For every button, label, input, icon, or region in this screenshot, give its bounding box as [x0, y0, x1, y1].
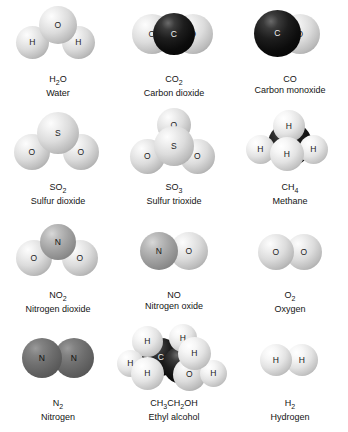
atom-label: O — [77, 254, 84, 263]
atom-n: N — [22, 338, 62, 378]
molecule-caption: COCarbon monoxide — [232, 74, 348, 96]
atom-o: O — [258, 234, 294, 270]
atom-h: H — [260, 344, 292, 376]
molecule-cell-methane: CHHHHCH4Methane — [232, 108, 348, 216]
atom-n: N — [140, 232, 178, 270]
molecule-model-oxygen: OO — [232, 216, 348, 288]
molecule-model-nitrogen-dioxide: NOO — [0, 216, 116, 288]
molecule-name: Water — [0, 88, 116, 99]
molecule-caption: CH3CH2OHEthyl alcohol — [116, 398, 232, 423]
atom-n: N — [40, 224, 76, 260]
atom-c: C — [254, 10, 301, 57]
molecule-model-carbon-monoxide: OC — [232, 0, 348, 72]
molecule-formula: H2 — [232, 398, 348, 412]
molecule-formula: CH4 — [232, 182, 348, 196]
molecule-cell-sulfur-trioxide: OSOOSO3Sulfur trioxide — [116, 108, 232, 216]
atom-label: H — [273, 356, 279, 365]
molecule-caption: SO2Sulfur dioxide — [0, 182, 116, 207]
atom-label: H — [310, 145, 316, 154]
molecule-name: Carbon monoxide — [232, 85, 348, 96]
molecule-formula: SO2 — [0, 182, 116, 196]
molecule-formula: CH3CH2OH — [116, 398, 232, 412]
molecule-model-sulfur-trioxide: OSOO — [116, 108, 232, 180]
molecule-cell-water: OHHH2OWater — [0, 0, 116, 108]
molecule-caption: SO3Sulfur trioxide — [116, 182, 232, 207]
atom-h: H — [270, 137, 304, 171]
atom-label: O — [194, 152, 201, 161]
molecule-model-hydrogen: HH — [232, 324, 348, 396]
molecule-cell-nitrogen-oxide: NONONitrogen oxide — [116, 216, 232, 324]
atom-label: O — [29, 148, 36, 157]
atom-label: S — [171, 142, 177, 151]
atom-label: O — [55, 21, 62, 30]
atom-s: S — [154, 126, 194, 166]
atom-label: O — [301, 248, 308, 257]
molecule-name: Nitrogen dioxide — [0, 304, 116, 315]
atom-label: C — [274, 29, 280, 38]
molecule-formula: NO2 — [0, 290, 116, 304]
molecule-caption: CO2Carbon dioxide — [116, 74, 232, 99]
molecule-cell-nitrogen-dioxide: NOONO2Nitrogen dioxide — [0, 216, 116, 324]
atom-label: O — [144, 152, 151, 161]
atom-label: H — [299, 356, 305, 365]
molecule-caption: H2Hydrogen — [232, 398, 348, 423]
atom-label: H — [191, 349, 197, 358]
atom-label: O — [78, 148, 85, 157]
molecule-cell-hydrogen: HHH2Hydrogen — [232, 324, 348, 432]
atom-label: H — [284, 150, 290, 159]
atom-label: N — [71, 354, 77, 363]
atom-label: N — [156, 247, 162, 256]
molecule-name: Methane — [232, 196, 348, 207]
atom-h: H — [178, 337, 211, 370]
molecule-cell-carbon-monoxide: OCCOCarbon monoxide — [232, 0, 348, 108]
atom-h: H — [131, 357, 164, 390]
atom-label: O — [186, 370, 193, 379]
molecule-formula: H2O — [0, 74, 116, 88]
molecule-model-sulfur-dioxide: SOO — [0, 108, 116, 180]
molecule-caption: N2Nitrogen — [0, 398, 116, 423]
molecule-cell-ethyl-alcohol: CCHHHHHOHCH3CH2OHEthyl alcohol — [116, 324, 232, 432]
molecule-model-ethyl-alcohol: CCHHHHHOH — [116, 324, 232, 396]
molecule-cell-sulfur-dioxide: SOOSO2Sulfur dioxide — [0, 108, 116, 216]
molecule-formula: N2 — [0, 398, 116, 412]
atom-label: O — [186, 247, 193, 256]
molecule-formula: O2 — [232, 290, 348, 304]
molecule-caption: CH4Methane — [232, 182, 348, 207]
molecule-formula: NO — [116, 290, 232, 301]
molecule-model-water: OHH — [0, 0, 116, 72]
molecule-caption: NO2Nitrogen dioxide — [0, 290, 116, 315]
molecule-caption: O2Oxygen — [232, 290, 348, 315]
atom-label: H — [29, 38, 35, 47]
molecule-model-nitrogen: NN — [0, 324, 116, 396]
atom-s: S — [37, 112, 79, 154]
atom-label: H — [210, 369, 216, 378]
molecule-model-carbon-dioxide: OOC — [116, 0, 232, 72]
atom-label: N — [39, 354, 45, 363]
atom-label: O — [273, 248, 280, 257]
atom-c: C — [153, 13, 195, 55]
molecule-cell-oxygen: OOO2Oxygen — [232, 216, 348, 324]
molecule-formula: CO — [232, 74, 348, 85]
molecule-formula: SO3 — [116, 182, 232, 196]
molecule-name: Nitrogen oxide — [116, 301, 232, 312]
molecule-caption: H2OWater — [0, 74, 116, 99]
atom-label: O — [31, 254, 38, 263]
molecule-caption: NONitrogen oxide — [116, 290, 232, 312]
molecule-model-methane: CHHHH — [232, 108, 348, 180]
molecule-model-nitrogen-oxide: NO — [116, 216, 232, 288]
molecule-name: Sulfur dioxide — [0, 196, 116, 207]
molecule-name: Hydrogen — [232, 412, 348, 423]
molecule-name: Ethyl alcohol — [116, 412, 232, 423]
molecule-grid: OHHH2OWaterOOCCO2Carbon dioxideOCCOCarbo… — [0, 0, 348, 432]
atom-label: H — [257, 145, 263, 154]
atom-label: H — [286, 122, 292, 131]
atom-label: C — [171, 30, 177, 39]
atom-label: H — [75, 38, 81, 47]
molecule-name: Nitrogen — [0, 412, 116, 423]
atom-label: H — [144, 369, 150, 378]
molecule-name: Carbon dioxide — [116, 88, 232, 99]
molecule-formula: CO2 — [116, 74, 232, 88]
atom-label: H — [144, 337, 150, 346]
atom-label: N — [55, 238, 61, 247]
atom-label: S — [55, 129, 61, 138]
